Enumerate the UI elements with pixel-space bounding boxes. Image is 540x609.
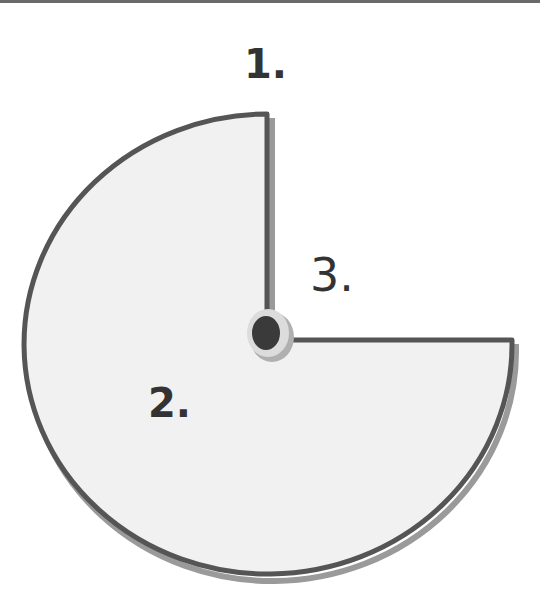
label-2: 2.	[148, 383, 191, 423]
label-3: 3.	[310, 252, 354, 298]
label-1: 1.	[244, 44, 287, 84]
clock-sector-diagram	[0, 0, 540, 609]
pivot-center-icon	[252, 316, 280, 350]
